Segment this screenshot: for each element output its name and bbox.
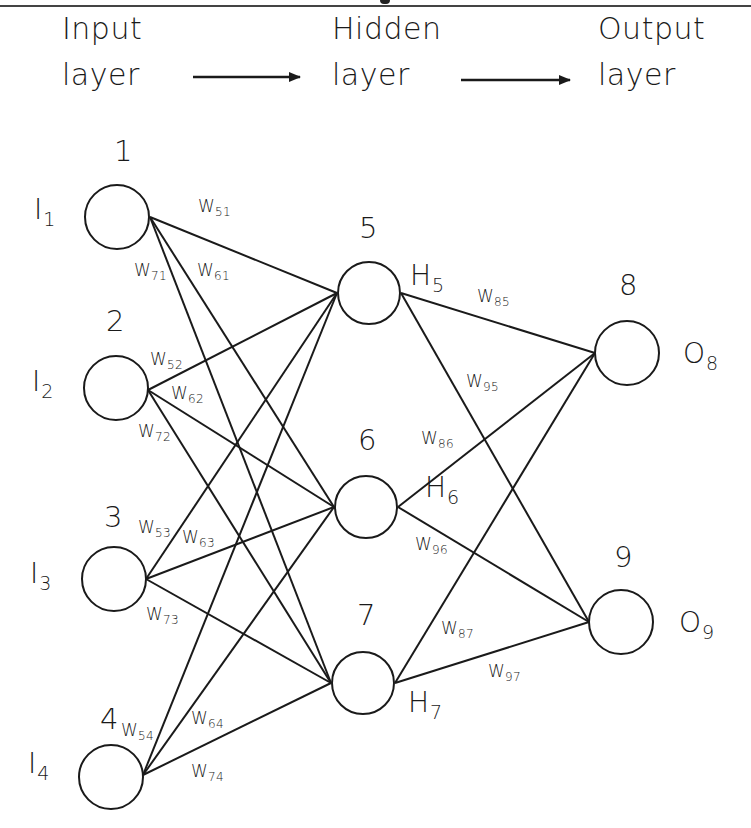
weight-w71: W71	[134, 262, 167, 282]
edge-4-7	[143, 683, 331, 775]
weight-w52: W52	[150, 351, 183, 371]
weight-w97: W97	[488, 663, 521, 683]
edge-7-8	[395, 353, 595, 683]
edge-2-6	[148, 390, 334, 507]
node-8-symbol: O8	[683, 340, 718, 373]
weight-w51: W51	[198, 198, 231, 218]
weight-w95: W95	[466, 373, 499, 393]
weight-w62: W62	[171, 385, 204, 405]
node-2-symbol: I2	[32, 368, 53, 401]
node-9-circle	[589, 590, 653, 654]
weight-w53: W53	[138, 519, 171, 539]
edge-6-9	[398, 507, 589, 622]
weight-w72: W72	[138, 423, 171, 443]
weight-w86: W86	[421, 430, 454, 450]
node-4-circle	[79, 745, 143, 809]
weight-w73: W73	[146, 606, 179, 626]
hidden-layer-label-line1: Hidden	[332, 14, 441, 44]
weight-w87: W87	[441, 620, 474, 640]
neural-network-diagram: Input layer Hidden layer Output layer 1 …	[0, 0, 751, 828]
node-1-number: 1	[114, 137, 132, 166]
node-1-circle	[85, 185, 149, 249]
weight-w74: W74	[191, 763, 224, 783]
node-6-symbol: H6	[425, 474, 459, 507]
node-6-number: 6	[358, 426, 376, 455]
node-8-circle	[595, 321, 659, 385]
node-9-number: 9	[614, 543, 632, 572]
hidden-layer-label-line2: layer	[332, 60, 410, 90]
node-5-circle	[338, 262, 400, 324]
node-7-number: 7	[357, 601, 375, 630]
node-7-symbol: H7	[408, 689, 442, 722]
node-5-number: 5	[359, 214, 377, 243]
edge-2-5	[148, 293, 337, 390]
weight-w96: W96	[415, 536, 448, 556]
node-5-symbol: H5	[410, 262, 444, 295]
node-2-number: 2	[106, 307, 124, 336]
edge-3-5	[146, 293, 337, 579]
edge-3-6	[146, 507, 334, 579]
input-layer-label-line2: layer	[62, 60, 140, 90]
input-layer-label-line1: Input	[62, 14, 142, 44]
node-3-number: 3	[104, 503, 122, 532]
weight-w61: W61	[197, 262, 230, 282]
output-layer-label-line2: layer	[598, 60, 676, 90]
node-8-number: 8	[619, 271, 637, 300]
node-1-symbol: I1	[34, 196, 55, 229]
edge-3-7	[146, 579, 331, 683]
node-7-circle	[332, 652, 394, 714]
node-6-circle	[335, 476, 397, 538]
node-4-symbol: I4	[28, 750, 49, 783]
node-4-number: 4	[100, 705, 118, 734]
output-layer-label-line1: Output	[598, 14, 705, 44]
weight-w63: W63	[182, 529, 215, 549]
node-9-symbol: O9	[679, 609, 714, 642]
node-3-symbol: I3	[30, 560, 51, 593]
node-2-circle	[84, 356, 148, 420]
node-3-circle	[82, 547, 146, 611]
weight-w85: W85	[477, 288, 510, 308]
weight-w64: W64	[191, 710, 224, 730]
weight-w54: W54	[121, 722, 154, 742]
edge-1-5	[150, 217, 337, 293]
